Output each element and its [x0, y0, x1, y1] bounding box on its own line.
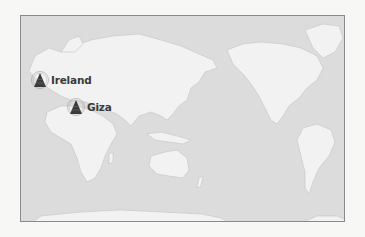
world-map[interactable]: Ireland Giza	[20, 15, 345, 222]
pyramid-icon	[67, 98, 85, 116]
antarctica-landmass-east	[301, 216, 345, 222]
south-america-landmass	[297, 124, 335, 194]
indonesia-landmass	[147, 132, 191, 144]
marker-giza[interactable]: Giza	[67, 98, 112, 116]
marker-label-ireland: Ireland	[51, 74, 91, 86]
antarctica-landmass	[31, 210, 231, 222]
australia-landmass	[149, 150, 189, 178]
new-zealand-landmass	[197, 176, 203, 188]
marker-label-giza: Giza	[87, 101, 112, 113]
africa-landmass	[45, 106, 117, 182]
map-landmasses	[21, 16, 345, 222]
north-america-landmass	[227, 42, 323, 124]
madagascar-landmass	[109, 152, 113, 164]
marker-ireland[interactable]: Ireland	[31, 71, 91, 89]
pyramid-icon	[31, 71, 49, 89]
